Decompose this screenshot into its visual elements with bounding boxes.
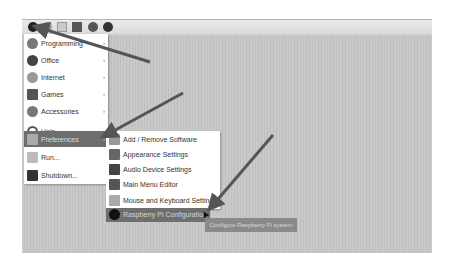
- menu-item-label: Shutdown...: [41, 167, 78, 184]
- menu-item-label: Internet: [41, 69, 65, 86]
- menu-item-label: Programming: [41, 35, 83, 52]
- submenu-item-label: Main Menu Editor: [123, 177, 178, 192]
- submenu-item-label: Audio Device Settings: [123, 162, 191, 177]
- submenu-item-add-remove-software[interactable]: Add / Remove Software: [106, 132, 220, 147]
- menu-item-label: Office: [41, 52, 59, 69]
- tooltip: Configure Raspberry Pi system: [205, 218, 297, 232]
- wolfram-icon[interactable]: [88, 22, 98, 32]
- menu-item-label: Accessories: [41, 103, 79, 120]
- main-menu-editor-icon: [109, 179, 120, 190]
- chevron-right-icon: ›: [103, 69, 105, 86]
- chevron-right-icon: ›: [103, 52, 105, 69]
- menu-item-shutdown[interactable]: Shutdown...: [24, 167, 108, 184]
- mouse-keyboard-settings-icon: [109, 195, 120, 206]
- main-menu: Programming › Office › Internet › Games …: [24, 34, 108, 184]
- office-icon: [27, 55, 38, 66]
- add-remove-software-icon: [109, 134, 120, 145]
- preferences-submenu: Add / Remove Software Appearance Setting…: [106, 131, 220, 209]
- submenu-item-audio-device-settings[interactable]: Audio Device Settings: [106, 162, 220, 177]
- chevron-right-icon: ›: [103, 35, 105, 52]
- submenu-item-main-menu-editor[interactable]: Main Menu Editor: [106, 177, 220, 192]
- preferences-icon: [27, 134, 38, 145]
- menu-item-label: Games: [41, 86, 64, 103]
- web-browser-icon[interactable]: [42, 22, 52, 32]
- menu-item-run[interactable]: Run...: [24, 149, 108, 166]
- chevron-right-icon: ›: [103, 131, 105, 148]
- menu-item-label: Run...: [41, 149, 60, 166]
- audio-device-settings-icon: [109, 164, 120, 175]
- taskbar: [22, 19, 432, 35]
- shutdown-icon: [27, 170, 38, 181]
- menu-item-internet[interactable]: Internet ›: [24, 69, 108, 86]
- chevron-right-icon: ›: [103, 86, 105, 103]
- internet-icon: [27, 72, 38, 83]
- menu-item-preferences[interactable]: Preferences ›: [24, 131, 108, 147]
- menu-item-games[interactable]: Games ›: [24, 86, 108, 103]
- menu-item-accessories[interactable]: Accessories ›: [24, 103, 108, 120]
- menu-item-programming[interactable]: Programming ›: [24, 35, 108, 52]
- run-icon: [27, 152, 38, 163]
- games-icon: [27, 89, 38, 100]
- programming-icon: [27, 38, 38, 49]
- terminal-icon[interactable]: [72, 22, 82, 32]
- appearance-settings-icon: [109, 149, 120, 160]
- submenu-item-label: Add / Remove Software: [123, 132, 197, 147]
- mathematica-icon[interactable]: [103, 22, 113, 32]
- file-manager-icon[interactable]: [57, 22, 67, 32]
- submenu-item-mouse-keyboard-settings[interactable]: Mouse and Keyboard Settings: [106, 193, 220, 208]
- submenu-item-label: Raspberry Pi Configuration: [123, 208, 207, 222]
- accessories-icon: [27, 106, 38, 117]
- submenu-item-raspberry-pi-configuration[interactable]: Raspberry Pi Configuration: [106, 208, 210, 222]
- raspberry-menu-icon[interactable]: [28, 22, 38, 32]
- menu-item-label: Preferences: [41, 131, 79, 148]
- menu-item-office[interactable]: Office ›: [24, 52, 108, 69]
- chevron-right-icon: ›: [103, 103, 105, 120]
- submenu-item-appearance-settings[interactable]: Appearance Settings: [106, 147, 220, 162]
- submenu-item-label: Appearance Settings: [123, 147, 188, 162]
- raspberry-pi-configuration-icon: [109, 209, 120, 220]
- submenu-item-label: Mouse and Keyboard Settings: [123, 193, 217, 208]
